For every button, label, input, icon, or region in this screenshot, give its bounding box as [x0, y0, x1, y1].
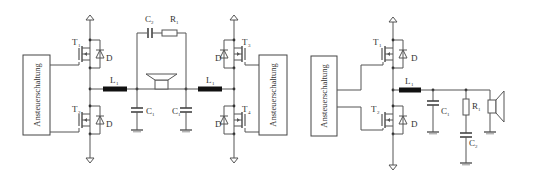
svg-text:D: D	[215, 53, 222, 63]
svg-text:D: D	[106, 119, 113, 129]
svg-text:L: L	[206, 75, 212, 85]
svg-text:3: 3	[248, 43, 251, 48]
speaker-icon	[146, 74, 177, 89]
svg-text:1: 1	[78, 43, 81, 48]
svg-text:2: 2	[377, 110, 380, 115]
driver-box-right: Ansteuerschaltung	[259, 55, 287, 135]
svg-text:L: L	[110, 75, 116, 85]
svg-text:1: 1	[116, 81, 119, 86]
svg-text:1: 1	[212, 81, 215, 86]
svg-text:1: 1	[176, 20, 179, 25]
svg-text:4: 4	[248, 110, 251, 115]
svg-text:D: D	[106, 53, 113, 63]
resistor-r1-top	[162, 30, 177, 36]
driver-box-left: Ansteuerschaltung	[23, 55, 50, 135]
full-bridge-circuit: Ansteuerschaltung T 1 D T 2 D L 1	[23, 14, 287, 163]
supply-rail-half-bridge	[382, 17, 407, 170]
inductor-l1-half-bridge	[399, 88, 421, 93]
svg-text:1: 1	[447, 112, 450, 117]
svg-text:D: D	[215, 119, 222, 129]
svg-text:2: 2	[475, 144, 478, 149]
svg-text:1: 1	[411, 82, 414, 87]
svg-text:D: D	[411, 53, 418, 63]
svg-text:2: 2	[151, 20, 154, 25]
svg-text:D: D	[411, 119, 418, 129]
driver-label: Ansteuerschaltung	[319, 64, 329, 128]
svg-text:1: 1	[478, 107, 481, 112]
svg-text:2: 2	[78, 110, 81, 115]
svg-text:1: 1	[379, 43, 382, 48]
svg-text:L: L	[405, 76, 411, 86]
resistor-r1	[463, 99, 469, 115]
inductor-l1-left	[103, 87, 127, 92]
driver-label: Ansteuerschaltung	[32, 63, 42, 127]
circuit-diagram: Ansteuerschaltung T 1 D T 2 D L 1	[0, 0, 535, 184]
svg-text:1: 1	[152, 112, 155, 117]
half-bridge-circuit: Ansteuerschaltung T 1 D T 2 D L 1	[311, 17, 504, 170]
driver-label: Ansteuerschaltung	[268, 63, 278, 127]
inductor-l1-right	[198, 87, 222, 92]
driver-box-half-bridge: Ansteuerschaltung	[311, 56, 337, 136]
